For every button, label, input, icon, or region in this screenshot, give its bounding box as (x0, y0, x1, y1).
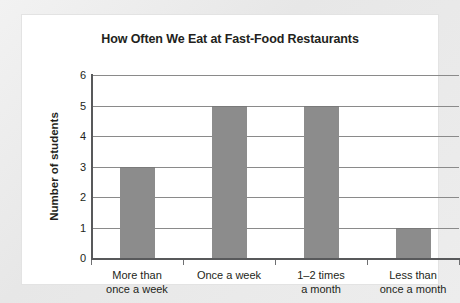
x-tick-label-line: 1–2 times (275, 268, 367, 282)
y-tick-label-1: 1 (66, 223, 86, 234)
y-tick-label-6: 6 (66, 70, 86, 81)
x-tick-label-line: a month (275, 282, 367, 296)
x-axis-tick-labels: More thanonce a weekOnce a week1–2 times… (91, 268, 460, 302)
x-tick-label-1: Once a week (183, 268, 275, 282)
x-tick-label-2: 1–2 timesa month (275, 268, 367, 296)
gridline-4 (91, 136, 459, 137)
y-axis-title: Number of students (48, 75, 62, 258)
x-tick-mark-1 (183, 260, 184, 265)
x-tick-mark-3 (367, 260, 368, 265)
y-axis-line (91, 74, 93, 259)
chart-screenshot: How Often We Eat at Fast-Food Restaurant… (0, 0, 460, 303)
y-tick-label-2: 2 (66, 192, 86, 203)
x-tick-mark-2 (275, 260, 276, 265)
x-tick-label-line: Once a week (183, 268, 275, 282)
x-tick-mark-0 (91, 260, 92, 265)
x-tick-label-line: Less than (367, 268, 459, 282)
plot-area (91, 75, 459, 258)
bar-2 (304, 106, 339, 260)
y-tick-label-5: 5 (66, 101, 86, 112)
bar-3 (396, 228, 431, 260)
bar-0 (120, 167, 155, 260)
x-tick-label-line: once a week (91, 282, 183, 296)
x-tick-label-line: once a month (367, 282, 459, 296)
y-tick-label-4: 4 (66, 131, 86, 142)
x-tick-label-3: Less thanonce a month (367, 268, 459, 296)
y-tick-label-0: 0 (66, 253, 86, 264)
y-tick-label-3: 3 (66, 162, 86, 173)
bar-1 (212, 106, 247, 260)
chart-panel: How Often We Eat at Fast-Food Restaurant… (22, 15, 438, 284)
chart-title: How Often We Eat at Fast-Food Restaurant… (22, 32, 438, 46)
x-tick-label-0: More thanonce a week (91, 268, 183, 296)
gridline-6 (91, 75, 459, 76)
y-axis-tick-labels: 0123456 (66, 75, 86, 258)
x-tick-label-line: More than (91, 268, 183, 282)
gridline-5 (91, 106, 459, 107)
